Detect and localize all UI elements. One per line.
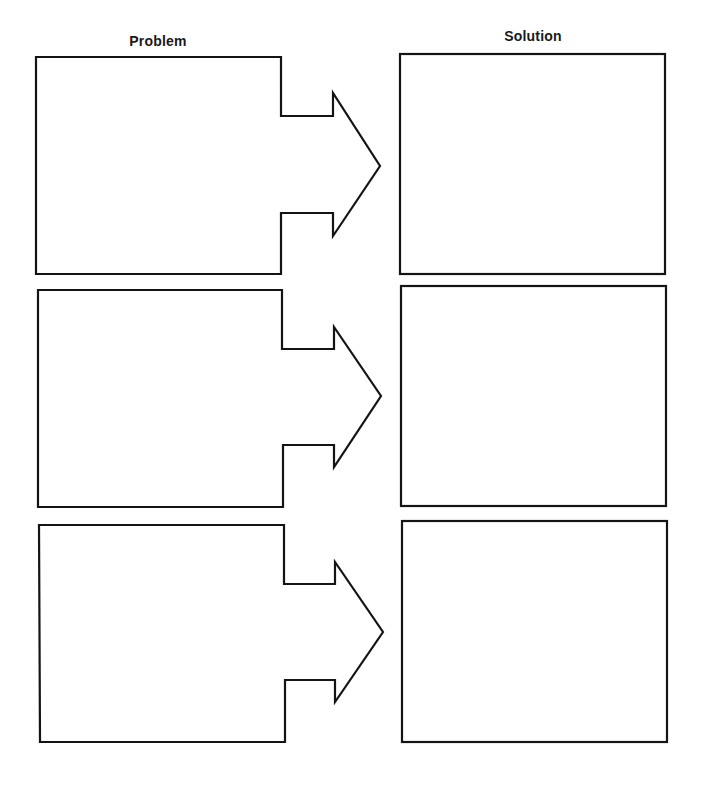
solution-text-1[interactable] — [410, 64, 655, 264]
problem-text-1[interactable] — [46, 67, 271, 264]
solution-text-3[interactable] — [412, 531, 657, 732]
problem-text-3[interactable] — [49, 535, 274, 732]
solution-text-2[interactable] — [411, 296, 656, 496]
problem-text-2[interactable] — [48, 300, 273, 497]
